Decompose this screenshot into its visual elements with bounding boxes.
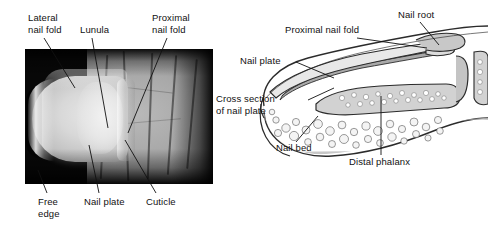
label-lateral-nail-fold: Lateral nail fold	[28, 12, 62, 35]
label-lunula: Lunula	[80, 24, 109, 36]
diagram-distal-phalanx-bone	[316, 84, 460, 115]
label-diagram-nail-bed: Nail bed	[276, 142, 312, 154]
diagram-bone-outline	[316, 84, 460, 115]
label-diagram-proximal-nail-fold: Proximal nail fold	[285, 24, 359, 36]
diagram-joint-cartilage	[456, 56, 468, 102]
label-diagram-nail-root: Nail root	[398, 9, 434, 21]
label-diagram-nail-plate: Nail plate	[240, 55, 281, 67]
label-free-edge: Free edge	[38, 196, 60, 219]
leader-diagram-nail-bed	[296, 116, 318, 142]
label-proximal-nail-fold: Proximal nail fold	[152, 12, 190, 35]
label-nail-plate-photo: Nail plate	[84, 196, 125, 208]
cross-section-diagram-panel: Proximal nail fold Nail root Nail plate …	[230, 0, 488, 227]
label-cuticle: Cuticle	[146, 196, 176, 208]
photograph-panel: Lateral nail fold Lunula Proximal nail f…	[0, 0, 230, 227]
label-diagram-distal-phalanx: Distal phalanx	[349, 156, 410, 168]
diagram-adjacent-bone	[474, 51, 488, 105]
photo-vignette-right	[25, 49, 213, 184]
label-diagram-cross-section-of-nail-plate: Cross section of nail plate	[216, 93, 275, 116]
figure-root: Lateral nail fold Lunula Proximal nail f…	[0, 0, 488, 227]
fingernail-photograph	[25, 49, 213, 184]
diagram-joint-region	[456, 51, 488, 105]
